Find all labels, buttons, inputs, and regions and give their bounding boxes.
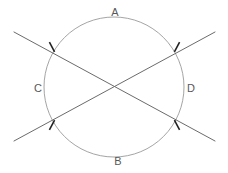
arc-label-a: A [111, 7, 118, 18]
tick-mark-top-right [174, 42, 179, 52]
geometry-figure: A B C D [0, 0, 228, 173]
arc-label-b: B [114, 156, 121, 167]
tick-mark-top-left [49, 42, 54, 52]
arc-label-d: D [187, 83, 195, 94]
arc-label-c: C [34, 83, 42, 94]
